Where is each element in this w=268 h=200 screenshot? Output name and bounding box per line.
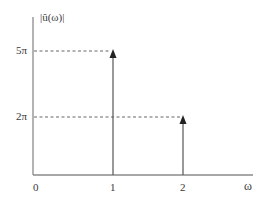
x-axis-label: ω <box>244 180 252 192</box>
arrowhead-omega-2 <box>180 115 187 124</box>
x-tick-1: 1 <box>110 182 116 193</box>
y-axis-label: |û(ω)| <box>40 12 64 23</box>
y-tick-2pi: 2π <box>16 111 27 122</box>
chart-canvas <box>0 0 268 200</box>
x-tick-0: 0 <box>33 182 39 193</box>
arrowhead-omega-1 <box>110 49 117 58</box>
y-tick-5pi: 5π <box>16 45 27 56</box>
x-tick-2: 2 <box>180 182 186 193</box>
